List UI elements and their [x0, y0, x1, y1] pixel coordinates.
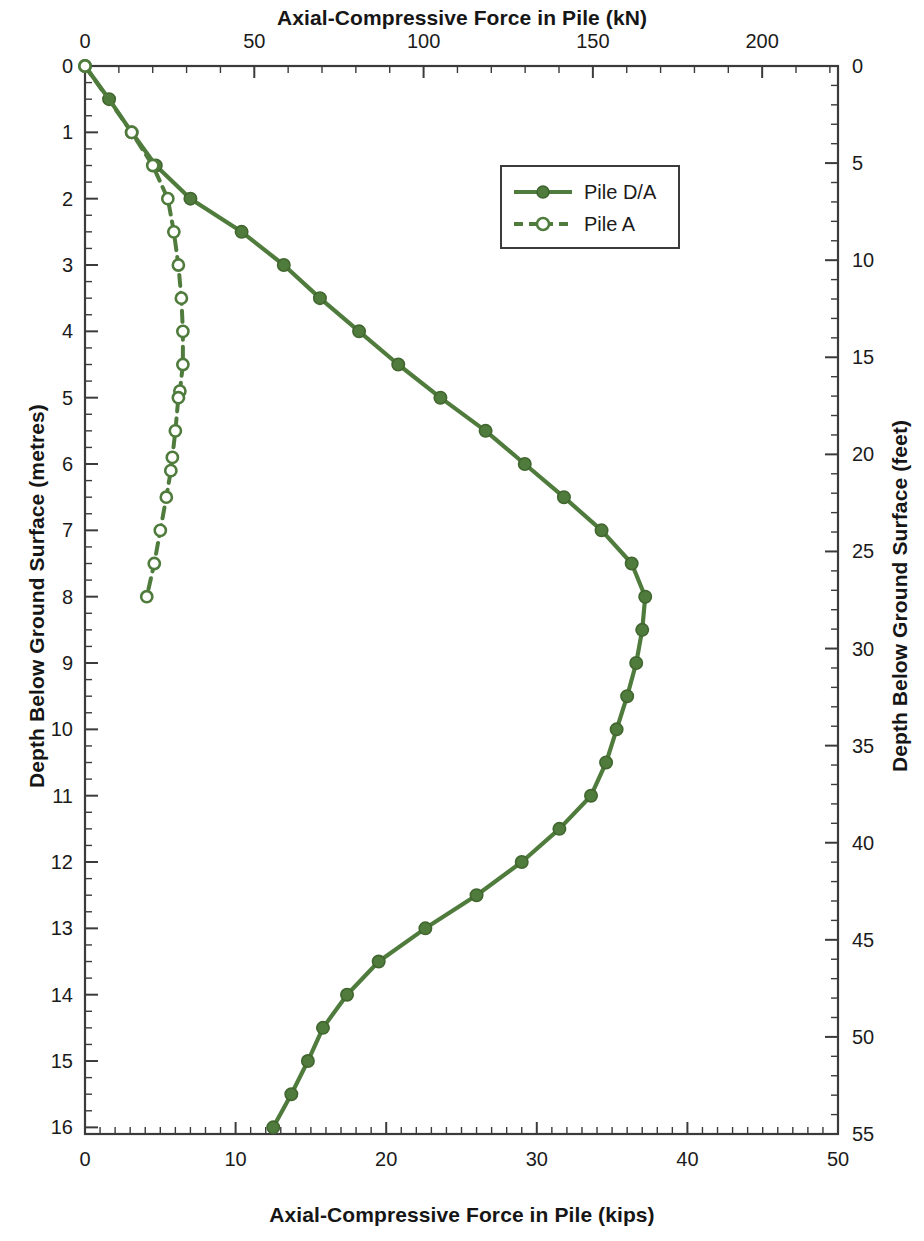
- tick-label-right-25: 25: [852, 540, 874, 563]
- tick-label-right-10: 10: [852, 249, 874, 272]
- data-point: [558, 491, 570, 503]
- tick-label-right-55: 55: [852, 1123, 874, 1146]
- data-point: [173, 259, 184, 270]
- data-point: [519, 458, 531, 470]
- tick-label-left-16: 16: [19, 1116, 73, 1139]
- data-point: [141, 591, 152, 602]
- data-point: [235, 226, 247, 238]
- legend-label-pile-da: Pile D/A: [584, 181, 656, 204]
- data-point: [177, 359, 188, 370]
- tick-label-left-0: 0: [19, 55, 73, 78]
- data-point: [173, 392, 184, 403]
- tick-label-left-14: 14: [19, 983, 73, 1006]
- tick-label-bottom-50: 50: [827, 1148, 849, 1171]
- data-point: [167, 452, 178, 463]
- tick-label-bottom-10: 10: [224, 1148, 246, 1171]
- tick-label-top-100: 100: [407, 30, 440, 53]
- tick-label-top-200: 200: [745, 30, 778, 53]
- data-point: [176, 293, 187, 304]
- tick-label-right-0: 0: [852, 55, 863, 78]
- data-point: [177, 326, 188, 337]
- data-point: [155, 525, 166, 536]
- data-point: [302, 1055, 314, 1067]
- tick-label-bottom-30: 30: [526, 1148, 548, 1171]
- tick-label-left-9: 9: [19, 652, 73, 675]
- tick-label-left-5: 5: [19, 386, 73, 409]
- tick-label-right-45: 45: [852, 928, 874, 951]
- data-point: [595, 524, 607, 536]
- data-point: [168, 226, 179, 237]
- tick-label-left-6: 6: [19, 453, 73, 476]
- chart-figure: Axial-Compressive Force in Pile (kN) Axi…: [0, 0, 924, 1241]
- tick-label-left-3: 3: [19, 254, 73, 277]
- tick-label-left-13: 13: [19, 917, 73, 940]
- tick-label-bottom-20: 20: [375, 1148, 397, 1171]
- data-point: [639, 590, 651, 602]
- tick-label-left-15: 15: [19, 1050, 73, 1073]
- tick-label-right-20: 20: [852, 443, 874, 466]
- data-point: [341, 989, 353, 1001]
- tick-label-left-2: 2: [19, 187, 73, 210]
- data-point: [184, 192, 196, 204]
- data-point: [147, 160, 158, 171]
- data-point: [479, 425, 491, 437]
- data-point: [165, 465, 176, 476]
- data-point: [516, 856, 528, 868]
- data-point: [170, 425, 181, 436]
- tick-label-left-1: 1: [19, 121, 73, 144]
- data-point: [630, 657, 642, 669]
- data-point: [317, 1022, 329, 1034]
- legend-swatch-dashed: [512, 213, 574, 235]
- legend-label-pile-a: Pile A: [584, 213, 635, 236]
- tick-label-right-5: 5: [852, 152, 863, 175]
- tick-label-left-7: 7: [19, 519, 73, 542]
- data-point: [285, 1088, 297, 1100]
- tick-label-left-4: 4: [19, 320, 73, 343]
- data-point: [625, 557, 637, 569]
- tick-label-left-8: 8: [19, 585, 73, 608]
- legend-item-pile-a: Pile A: [512, 208, 668, 240]
- legend-swatch-solid: [512, 181, 574, 203]
- chart-legend: Pile D/A Pile A: [500, 165, 680, 249]
- data-point: [470, 889, 482, 901]
- tick-label-right-30: 30: [852, 637, 874, 660]
- tick-label-left-10: 10: [19, 718, 73, 741]
- data-point: [392, 358, 404, 370]
- data-point: [419, 922, 431, 934]
- tick-label-bottom-0: 0: [79, 1148, 90, 1171]
- legend-item-pile-da: Pile D/A: [512, 176, 668, 208]
- data-point: [372, 955, 384, 967]
- tick-label-top-0: 0: [79, 30, 90, 53]
- tick-label-top-50: 50: [243, 30, 265, 53]
- tick-label-right-15: 15: [852, 346, 874, 369]
- data-point: [585, 789, 597, 801]
- data-point: [621, 690, 633, 702]
- data-point: [278, 259, 290, 271]
- data-point: [162, 193, 173, 204]
- data-point: [353, 325, 365, 337]
- tick-label-right-50: 50: [852, 1025, 874, 1048]
- axis-ticks: [85, 66, 838, 1134]
- tick-label-left-12: 12: [19, 851, 73, 874]
- data-point: [610, 723, 622, 735]
- tick-label-right-40: 40: [852, 831, 874, 854]
- data-point: [79, 60, 90, 71]
- data-point: [314, 292, 326, 304]
- data-point: [636, 624, 648, 636]
- data-point: [553, 823, 565, 835]
- plot-frame: [85, 66, 838, 1134]
- tick-label-top-150: 150: [576, 30, 609, 53]
- data-point: [267, 1121, 279, 1133]
- tick-label-bottom-40: 40: [676, 1148, 698, 1171]
- data-point: [126, 127, 137, 138]
- tick-label-right-35: 35: [852, 734, 874, 757]
- data-point: [161, 492, 172, 503]
- data-point: [434, 391, 446, 403]
- plot-area: [0, 0, 924, 1241]
- tick-label-left-11: 11: [19, 784, 73, 807]
- data-point: [149, 558, 160, 569]
- data-point: [600, 756, 612, 768]
